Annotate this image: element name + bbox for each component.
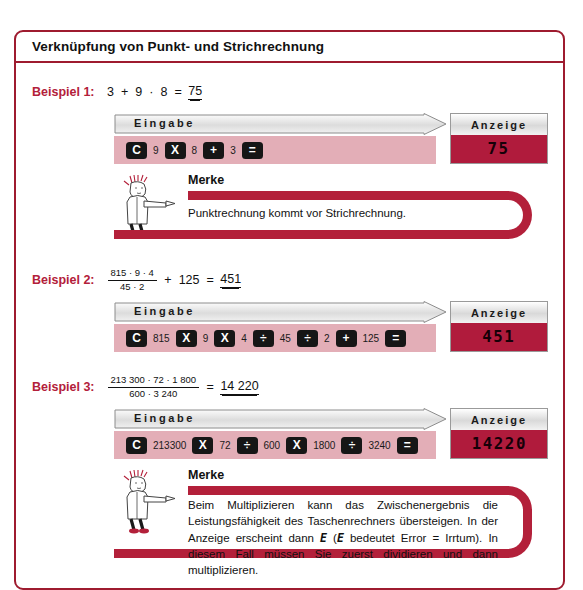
calc-key[interactable]: + — [336, 330, 357, 347]
example-2-label: Beispiel 2: — [32, 273, 95, 287]
fraction: 213 300 · 72 · 1 800 600 · 3 240 — [108, 375, 200, 399]
calc-number: 213300 — [153, 440, 186, 451]
example-1-result: 75 — [188, 84, 202, 100]
merke-text-2: Beim Multiplizieren kann das Zwischenerg… — [188, 497, 498, 579]
worksheet-content: Beispiel 1: 3 + 9 · 8 = 75 — [16, 63, 563, 564]
expr-token: 9 — [135, 85, 142, 99]
expr-token: 3 — [107, 85, 114, 99]
example-1-label: Beispiel 1: — [32, 85, 95, 99]
calc-number: 72 — [219, 440, 230, 451]
example-2-heading: Beispiel 2: 815 · 9 · 4 45 · 2 + 125 = 4… — [16, 267, 563, 293]
calc-number: 3 — [230, 145, 236, 156]
calc-key[interactable]: X — [286, 437, 307, 454]
merke-note-2: Merke Beim Multiplizieren kann das Zwisc… — [16, 468, 563, 564]
key-sequence-3: C 213300 X 72 ÷ 600 X 1800 ÷ 3240 = — [114, 431, 436, 459]
display-panel-3: Anzeige 14220 — [450, 408, 548, 459]
example-1-expression: 3 + 9 · 8 = 75 — [104, 84, 203, 100]
example-block-3: Beispiel 3: 213 300 · 72 · 1 800 600 · 3… — [16, 352, 563, 564]
expr-token: = — [207, 273, 214, 287]
calc-number: 3240 — [368, 440, 390, 451]
calc-key[interactable]: = — [385, 330, 406, 347]
eingabe-label-3: Eingabe — [134, 412, 195, 424]
expr-token: + — [121, 85, 128, 99]
anzeige-label: Anzeige — [471, 119, 527, 131]
fraction-numerator: 815 · 9 · 4 — [108, 268, 157, 280]
calc-number: 45 — [280, 333, 291, 344]
calc-key[interactable]: X — [192, 437, 213, 454]
display-header-2: Anzeige — [450, 301, 548, 323]
worksheet-title-bar: Verknüpfung von Punkt- und Strichrechnun… — [16, 32, 563, 63]
calculator-strip-2: Eingabe C 815 X 9 X 4 ÷ 45 ÷ 2 + 125 = — [16, 301, 563, 352]
display-value: 451 — [482, 328, 515, 346]
key-sequence-1: C 9 X 8 + 3 = — [114, 136, 436, 164]
calc-number: 2 — [324, 333, 330, 344]
merke-title-2: Merke — [188, 468, 224, 482]
display-panel-1: Anzeige 75 — [450, 113, 548, 164]
calc-number: 9 — [203, 333, 209, 344]
scientist-figure-icon — [116, 468, 178, 536]
calc-number: 815 — [153, 333, 170, 344]
error-symbol: E — [320, 531, 327, 545]
anzeige-label: Anzeige — [471, 414, 527, 426]
page-title: Verknüpfung von Punkt- und Strichrechnun… — [16, 39, 324, 54]
merke-band-top-2 — [188, 486, 498, 495]
expr-token: 8 — [160, 85, 167, 99]
merke-band-curve-1 — [498, 191, 532, 239]
display-header-1: Anzeige — [450, 113, 548, 135]
calc-key[interactable]: = — [242, 142, 263, 159]
calc-key[interactable]: C — [126, 142, 147, 159]
example-1-heading: Beispiel 1: 3 + 9 · 8 = 75 — [16, 79, 563, 105]
expr-token: + — [164, 273, 171, 287]
calc-key[interactable]: C — [126, 330, 147, 347]
expr-token: 125 — [179, 273, 200, 287]
calc-key[interactable]: C — [126, 437, 147, 454]
fraction-denominator: 45 · 2 — [120, 281, 144, 292]
merke-band-curve-2 — [498, 486, 532, 558]
worksheet-frame: Verknüpfung von Punkt- und Strichrechnun… — [14, 30, 565, 590]
anzeige-label: Anzeige — [471, 307, 527, 319]
calc-key[interactable]: ÷ — [253, 330, 274, 347]
calculator-strip-1: Eingabe C 9 X 8 + 3 = Anzeige 75 — [16, 113, 563, 164]
example-3-expression: 213 300 · 72 · 1 800 600 · 3 240 = 14 22… — [104, 375, 259, 399]
calc-number: 4 — [241, 333, 247, 344]
merke-text-part-2: ( — [327, 532, 337, 544]
example-3-heading: Beispiel 3: 213 300 · 72 · 1 800 600 · 3… — [16, 374, 563, 400]
calc-number: 9 — [153, 145, 159, 156]
key-sequence-2: C 815 X 9 X 4 ÷ 45 ÷ 2 + 125 = — [114, 324, 436, 352]
calc-key[interactable]: = — [397, 437, 418, 454]
merke-title-1: Merke — [188, 173, 224, 187]
display-header-3: Anzeige — [450, 408, 548, 430]
error-symbol: E — [337, 531, 344, 545]
calc-number: 1800 — [313, 440, 335, 451]
expr-token: · — [149, 85, 153, 99]
calc-key[interactable]: X — [214, 330, 235, 347]
display-panel-2: Anzeige 451 — [450, 301, 548, 352]
calc-key[interactable]: ÷ — [237, 437, 258, 454]
calc-key[interactable]: X — [176, 330, 197, 347]
expr-token: = — [207, 380, 214, 394]
expr-token: = — [174, 85, 181, 99]
calc-key[interactable]: ÷ — [341, 437, 362, 454]
merke-band-top-1 — [188, 191, 498, 200]
eingabe-label-1: Eingabe — [134, 117, 195, 129]
display-value: 75 — [488, 140, 510, 158]
calc-number: 8 — [192, 145, 198, 156]
example-3-label: Beispiel 3: — [32, 380, 95, 394]
merke-band-bottom-1 — [114, 230, 500, 239]
example-2-result: 451 — [220, 272, 241, 288]
merke-note-1: Merke Punktrechnung kommt vor Strichrech… — [16, 173, 563, 245]
calc-number: 125 — [363, 333, 380, 344]
display-screen-1: 75 — [450, 135, 548, 164]
display-value: 14220 — [471, 435, 526, 453]
calc-number: 600 — [264, 440, 281, 451]
example-3-result: 14 220 — [220, 379, 258, 395]
display-screen-3: 14220 — [450, 430, 548, 459]
calc-key[interactable]: ÷ — [297, 330, 318, 347]
fraction-denominator: 600 · 3 240 — [129, 388, 177, 399]
fraction-numerator: 213 300 · 72 · 1 800 — [108, 375, 200, 387]
example-block-1: Beispiel 1: 3 + 9 · 8 = 75 — [16, 63, 563, 245]
merke-text-1: Punktrechnung kommt vor Strichrechnung. — [188, 205, 488, 221]
calc-key[interactable]: + — [203, 142, 224, 159]
calc-key[interactable]: X — [165, 142, 186, 159]
calculator-strip-3: Eingabe C 213300 X 72 ÷ 600 X 1800 ÷ 324… — [16, 408, 563, 459]
